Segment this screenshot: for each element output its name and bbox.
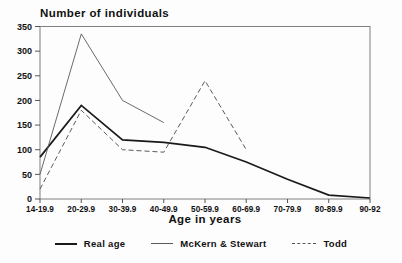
series-line-todd [40, 81, 246, 189]
legend-item-real-age: Real age [55, 238, 125, 249]
legend-item-mckern-stewart: McKern & Stewart [151, 238, 266, 249]
legend-label: McKern & Stewart [180, 238, 266, 249]
series-line-real-age [40, 105, 370, 198]
y-tick-label: 0 [27, 194, 32, 204]
y-tick-label: 300 [17, 46, 32, 56]
y-tick-label: 250 [17, 71, 32, 81]
legend-swatch-solid-thin [151, 243, 173, 244]
legend: Real age McKern & Stewart Todd [0, 238, 402, 249]
legend-label: Todd [323, 238, 347, 249]
legend-swatch-dashed [292, 243, 316, 244]
legend-swatch-solid-thick [55, 243, 77, 245]
y-tick-label: 200 [17, 96, 32, 106]
y-tick-label: 50 [22, 170, 32, 180]
legend-label: Real age [84, 238, 125, 249]
chart-figure: Number of individuals 050100150200250300… [0, 0, 402, 263]
y-tick-label: 100 [17, 145, 32, 155]
y-tick-label: 150 [17, 120, 32, 130]
x-axis-label: Age in years [40, 213, 370, 225]
legend-item-todd: Todd [292, 238, 347, 249]
y-tick-label: 350 [17, 22, 32, 32]
